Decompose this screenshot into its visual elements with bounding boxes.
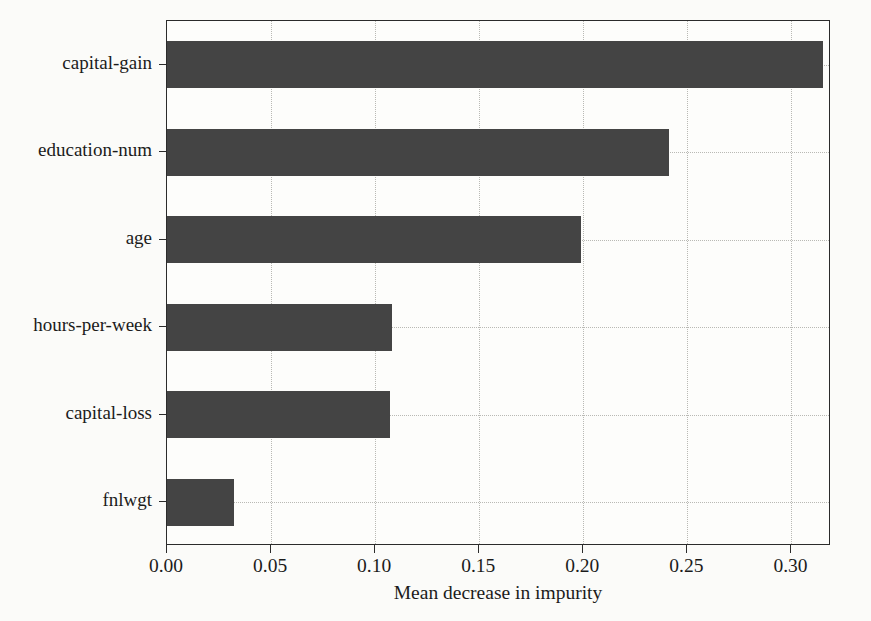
y-tick-label: capital-loss — [2, 403, 152, 422]
x-tick-label: 0.15 — [423, 556, 533, 576]
y-tick-label: education-num — [2, 140, 152, 159]
bar — [167, 41, 823, 88]
x-tick-mark — [374, 545, 375, 553]
x-tick-label: 0.30 — [735, 556, 845, 576]
gridline-vertical — [375, 21, 376, 544]
y-tick-label: fnlwgt — [2, 490, 152, 509]
y-tick-label: age — [2, 228, 152, 247]
x-tick-label: 0.20 — [527, 556, 637, 576]
gridline-vertical — [479, 21, 480, 544]
x-tick-label: 0.05 — [215, 556, 325, 576]
gridline-vertical — [583, 21, 584, 544]
y-tick-mark — [159, 501, 166, 502]
x-tick-mark — [478, 545, 479, 553]
y-tick-label: hours-per-week — [2, 315, 152, 334]
x-tick-mark — [686, 545, 687, 553]
x-tick-label: 0.25 — [631, 556, 741, 576]
x-tick-mark — [270, 545, 271, 553]
y-tick-label: capital-gain — [2, 53, 152, 72]
bar — [167, 304, 392, 351]
x-tick-mark — [790, 545, 791, 553]
gridline-horizontal — [167, 502, 829, 503]
plot-area — [166, 20, 830, 545]
gridline-vertical — [687, 21, 688, 544]
gridline-vertical — [271, 21, 272, 544]
x-tick-mark — [166, 545, 167, 553]
y-tick-mark — [159, 414, 166, 415]
x-tick-label: 0.10 — [319, 556, 429, 576]
x-tick-mark — [582, 545, 583, 553]
y-tick-mark — [159, 326, 166, 327]
bar — [167, 216, 581, 263]
x-axis-title: Mean decrease in impurity — [166, 583, 830, 603]
y-axis-labels: capital-gaineducation-numagehours-per-we… — [0, 0, 152, 621]
y-tick-mark — [159, 64, 166, 65]
bar — [167, 129, 669, 176]
y-tick-mark — [159, 239, 166, 240]
feature-importance-bar-chart: capital-gaineducation-numagehours-per-we… — [0, 0, 871, 621]
bar — [167, 391, 390, 438]
x-tick-label: 0.00 — [111, 556, 221, 576]
bar — [167, 479, 234, 526]
y-tick-mark — [159, 151, 166, 152]
gridline-vertical — [791, 21, 792, 544]
